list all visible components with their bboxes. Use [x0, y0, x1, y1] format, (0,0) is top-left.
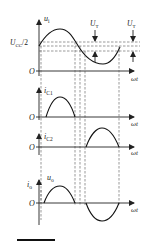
io-label: io — [27, 180, 32, 190]
output-x-label: ωt — [131, 206, 139, 214]
output-origin-label: O — [29, 199, 35, 208]
ic1-label: iC1 — [44, 86, 53, 96]
ic1-origin-label: O — [29, 113, 35, 122]
ic1-x-label: ωt — [131, 120, 139, 128]
input-sine-curve — [39, 29, 120, 64]
output-negative-half-wave — [86, 203, 119, 221]
ui-x-label: ωt — [131, 75, 139, 83]
class-b-push-pull-waveform-diagram: ui UCC/2 UT UT O ωt iC1 O ωt iC2 O ωt — [0, 0, 152, 241]
ut-label-2: UT — [127, 19, 135, 29]
ui-label: ui — [44, 14, 50, 24]
ucc-half-label: UCC/2 — [10, 38, 28, 48]
ic2-label: iC2 — [44, 132, 53, 142]
output-panel: uo io O ωt — [27, 173, 139, 225]
ic1-half-wave — [46, 97, 75, 117]
output-positive-half-wave — [44, 186, 75, 203]
ut-label-1: UT — [90, 19, 98, 29]
vertical-guide-lines — [41, 42, 119, 220]
ic1-panel: iC1 O ωt — [29, 86, 139, 128]
uo-label: uo — [47, 173, 54, 183]
ic2-x-label: ωt — [131, 149, 139, 157]
ic2-origin-label: O — [29, 143, 35, 152]
ui-origin-label: O — [29, 67, 35, 76]
ic2-half-wave — [86, 128, 119, 147]
ic2-panel: iC2 O ωt — [29, 128, 139, 157]
